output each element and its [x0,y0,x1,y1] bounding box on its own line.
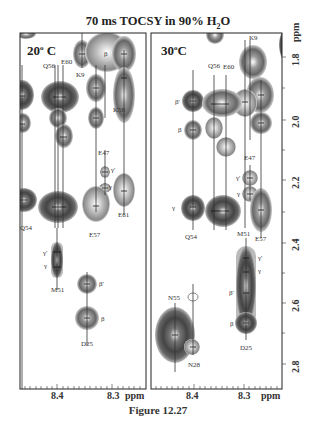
tocsy-spectra: Q56 E60 K9 β K58 E47 γ' γ E57 E61 Q54 γ'… [0,0,316,435]
temperature-label-30c: 30oC [161,43,187,59]
y-axis-unit: ppm [290,23,301,42]
label-e60: E60 [61,58,73,66]
label-d25-beta-prime: β' [99,280,104,288]
label-gamma: γ [108,183,112,191]
label-gamma: γ [236,190,240,198]
y-axis-ticks [282,57,286,364]
y-tick-2-4: 2.4 [290,239,301,252]
label-beta: β [104,50,108,58]
figure-caption: Figure 12.27 [0,404,316,416]
label-e61: E61 [118,211,130,219]
x-unit-left: ppm [125,390,144,401]
x-tick-right-8-3: 8.3 [238,390,251,401]
label-d25: D25 [240,344,253,352]
label-d25: D25 [81,340,94,348]
label-m51-gamma: γ [43,262,47,270]
label-m51-gamma-prime: γ' [42,249,47,257]
label-e57: E57 [255,235,267,243]
y-tick-2-6: 2.6 [290,300,301,313]
y-tick-2-8: 2.8 [290,361,301,374]
label-n55: N55 [168,294,181,302]
label-gamma-prime: γ' [110,166,115,174]
label-q54-gamma: γ [171,204,175,212]
y-tick-2-0: 2.0 [290,116,301,129]
label-n28: N28 [188,361,201,369]
label-e57: E57 [89,231,101,239]
x-tick-left-8-4: 8.4 [51,390,64,401]
label-m51-gamma-prime: γ' [257,254,262,262]
label-beta: β [178,126,182,134]
x-axis-ticks-left [25,384,140,389]
label-beta-prime: β' [175,98,180,106]
panel-20c: Q56 E60 K9 β K58 E47 γ' γ E57 E61 Q54 γ'… [10,29,146,390]
label-k9: K9 [76,71,85,79]
x-tick-left-8-3: 8.3 [107,390,120,401]
label-q56: Q56 [43,62,56,70]
label-e60: E60 [223,63,235,71]
temperature-label-20c: 20o C [27,43,56,59]
label-q56: Q56 [208,62,221,70]
label-d25-beta-prime: β' [229,289,234,297]
label-q54: Q54 [185,233,198,241]
label-k9: K9 [249,34,258,42]
x-axis-ticks-right [156,384,277,389]
label-gamma-prime: γ' [235,174,240,182]
label-d25-beta: β [230,320,234,328]
label-e47: E47 [98,149,110,157]
label-m51: M51 [51,286,65,294]
label-k58: K58 [113,106,126,114]
label-m51-gamma: γ [257,267,261,275]
x-unit-right: ppm [261,390,280,401]
y-tick-2-2: 2.2 [290,177,301,190]
panel-30c: K9 Q56 E60 β' β E47 γ' γ γ Q54 M51 E57 γ… [151,26,289,389]
label-e47: E47 [244,154,256,162]
x-tick-right-8-4: 8.4 [186,390,199,401]
y-tick-1-8: 1.8 [290,54,301,67]
label-m51: M51 [237,230,251,238]
label-q54: Q54 [20,224,33,232]
label-d25-beta: β [101,315,105,323]
